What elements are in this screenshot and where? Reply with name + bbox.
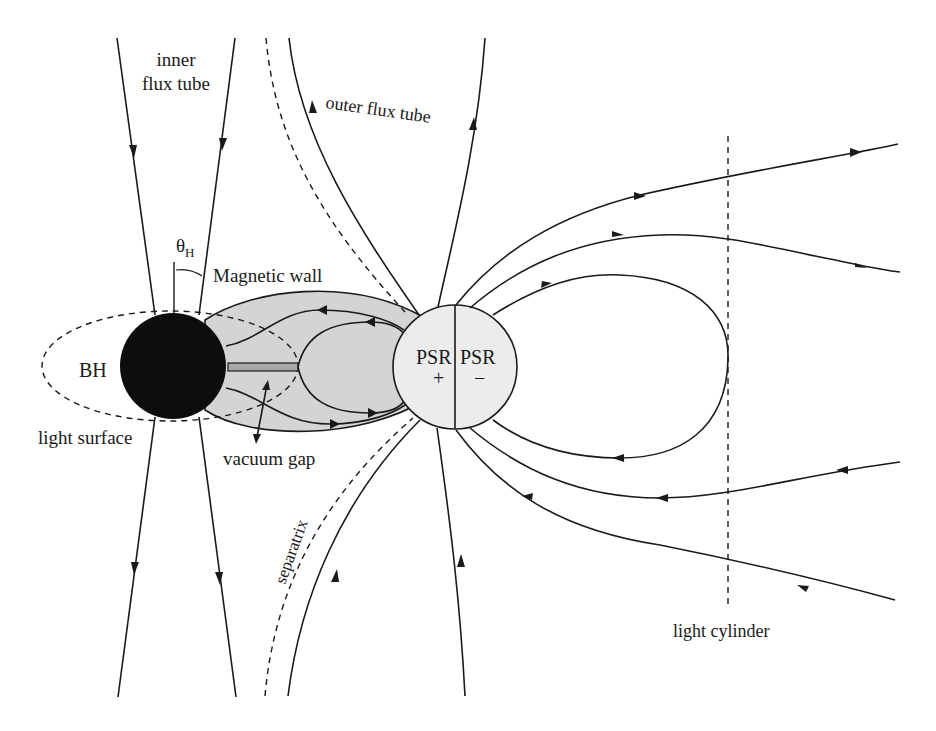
closed-field-line — [493, 275, 728, 458]
vacuum-gap-label: vacuum gap — [223, 448, 315, 469]
black-hole — [120, 313, 226, 419]
arrow-icon — [309, 100, 317, 113]
outer-flux-tube-line-2 — [438, 38, 485, 307]
arrow-icon — [331, 569, 339, 582]
bh-psr-magnetosphere-diagram: inner flux tube outer flux tube θH Magne… — [0, 0, 936, 731]
bh-label: BH — [79, 359, 107, 381]
arrow-icon — [797, 585, 809, 592]
arrow-icon — [612, 231, 624, 237]
inner-flux-tube-label: flux tube — [142, 73, 210, 94]
arrow-icon — [253, 434, 261, 444]
theta-arc — [176, 270, 202, 276]
separatrix-label: separatrix — [271, 516, 312, 586]
psr-plus-label: PSR — [416, 346, 452, 368]
outer-flux-tube-label: outer flux tube — [324, 92, 432, 127]
psr-minus-label: PSR — [460, 346, 496, 368]
light-cylinder-label: light cylinder — [673, 621, 769, 641]
vacuum-gap-bar — [228, 363, 298, 371]
arrow-icon — [656, 494, 668, 502]
arrow-icon — [612, 454, 624, 462]
light-surface-label: light surface — [38, 427, 132, 448]
psr-plus-sign: + — [433, 367, 444, 389]
inner-flux-tube-label: inner — [156, 49, 196, 70]
arrow-icon — [215, 572, 223, 585]
arrow-icon — [836, 466, 848, 474]
magnetic-wall-label: Magnetic wall — [213, 265, 322, 286]
arrow-icon — [457, 554, 465, 567]
psr-minus-sign: − — [474, 367, 485, 389]
arrow-icon — [850, 148, 862, 157]
theta-h-label: θH — [176, 235, 195, 260]
open-field-line-lower-2 — [456, 430, 895, 600]
open-field-line-upper-1 — [456, 144, 898, 305]
arrow-icon — [634, 192, 646, 200]
open-field-line-upper-2 — [470, 235, 900, 308]
inner-flux-tube-line-3 — [118, 417, 155, 697]
open-field-line-lower-1 — [470, 428, 900, 498]
